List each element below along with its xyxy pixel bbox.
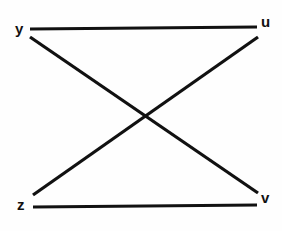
edge-z-v [33, 205, 257, 207]
vertex-label-z: z [17, 197, 25, 212]
bipartite-graph-diagram: y u z v [0, 0, 282, 231]
graph-canvas [0, 0, 282, 231]
vertex-label-v: v [261, 190, 269, 205]
edge-y-u [30, 27, 257, 29]
vertex-label-y: y [15, 21, 23, 36]
vertex-label-u: u [261, 14, 270, 29]
